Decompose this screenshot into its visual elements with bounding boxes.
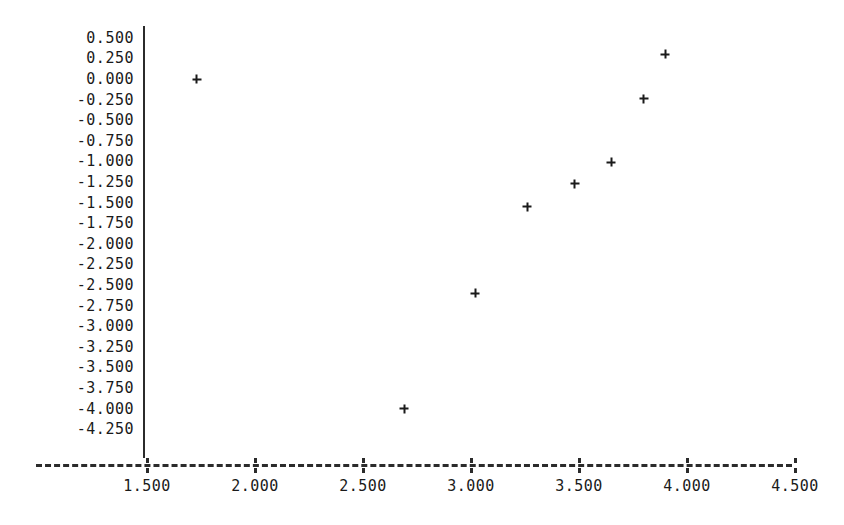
data-point xyxy=(399,403,410,414)
data-point xyxy=(470,288,481,299)
data-point xyxy=(606,157,617,168)
data-point xyxy=(638,93,649,104)
data-point xyxy=(191,74,202,85)
data-point xyxy=(522,201,533,212)
data-point xyxy=(660,49,671,60)
scatter-plot: 0.5000.2500.000-0.250-0.500-0.750-1.000-… xyxy=(0,0,844,525)
data-point xyxy=(569,178,580,189)
data-point-layer xyxy=(0,0,844,525)
